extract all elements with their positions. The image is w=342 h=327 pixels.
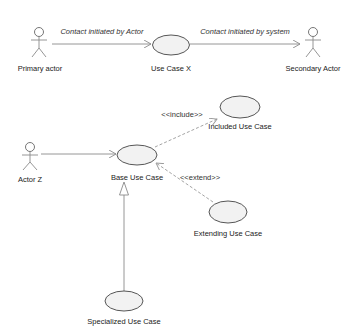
included-use-case-ellipse[interactable] [220, 96, 260, 118]
base-use-case-ellipse[interactable] [117, 145, 157, 165]
secondary-actor-icon[interactable] [305, 28, 321, 58]
secondary-actor-label: Secondary Actor [285, 65, 340, 73]
actor-z-label: Actor Z [18, 176, 42, 184]
use-case-x-ellipse[interactable] [153, 35, 190, 55]
generalization-relationship[interactable] [120, 182, 129, 291]
actor-z-icon[interactable] [22, 143, 38, 171]
extending-use-case-ellipse[interactable] [209, 201, 247, 223]
association-label-actor: Contact initiated by Actor [60, 28, 143, 36]
specialized-use-case-ellipse[interactable] [105, 291, 143, 311]
primary-actor-label: Primary actor [18, 65, 63, 73]
use-case-diagram [0, 0, 342, 327]
extending-use-case-label: Extending Use Case [194, 230, 262, 238]
association-label-system: Contact initiated by system [200, 28, 290, 36]
specialized-use-case-label: Specialized Use Case [87, 318, 160, 326]
base-use-case-label: Base Use Case [111, 174, 163, 182]
primary-actor-icon[interactable] [31, 28, 47, 58]
included-use-case-label: Included Use Case [208, 123, 271, 131]
include-stereotype-label: <<include>> [161, 111, 202, 119]
extend-stereotype-label: <<extend>> [180, 174, 220, 182]
extend-relationship[interactable] [156, 163, 213, 202]
use-case-x-label: Use Case X [151, 65, 191, 73]
